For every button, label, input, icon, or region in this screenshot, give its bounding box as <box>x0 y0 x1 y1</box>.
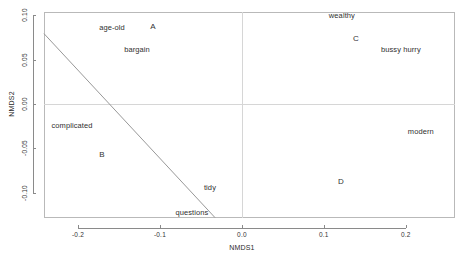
x-tick-mark <box>78 225 79 228</box>
y-tick-label: 0.00 <box>21 97 28 110</box>
y-tick-mark <box>33 148 36 149</box>
x-tick-label: -0.1 <box>154 231 166 238</box>
x-axis-title: NMDS1 <box>229 244 255 251</box>
x-tick-label: 0.1 <box>319 231 329 238</box>
species-label: bargain <box>124 44 150 53</box>
y-tick-mark <box>33 15 36 16</box>
y-tick-label: -0.05 <box>21 140 28 156</box>
x-tick-label: 0.0 <box>237 231 247 238</box>
x-tick-mark <box>406 225 407 228</box>
x-tick-mark <box>324 225 325 228</box>
group-label: B <box>99 149 104 158</box>
species-label: complicated <box>51 120 92 129</box>
y-tick-mark <box>33 60 36 61</box>
y-tick-label: -0.10 <box>21 185 28 201</box>
y-tick-label: 0.05 <box>21 53 28 66</box>
x-axis-line <box>78 228 406 229</box>
y-tick-mark <box>33 104 36 105</box>
nmds-ordination-plot: -0.2-0.10.00.10.2 -0.10-0.050.000.050.10… <box>0 0 461 256</box>
species-label: wealthy <box>329 11 355 20</box>
y-tick-mark <box>33 193 36 194</box>
species-label: modern <box>408 127 434 136</box>
species-label: tidy <box>204 183 216 192</box>
species-label: bussy hurry <box>381 44 421 53</box>
y-tick-label: 0.10 <box>21 9 28 22</box>
x-tick-mark <box>160 225 161 228</box>
group-label: D <box>338 176 344 185</box>
x-tick-label: -0.2 <box>72 231 84 238</box>
group-label: C <box>353 33 359 42</box>
species-label: age-old <box>99 23 125 32</box>
species-label: questions <box>175 208 208 217</box>
x-tick-label: 0.2 <box>401 231 411 238</box>
group-label: A <box>150 22 155 31</box>
x-tick-mark <box>242 225 243 228</box>
y-axis-title: NMDS2 <box>8 91 15 117</box>
